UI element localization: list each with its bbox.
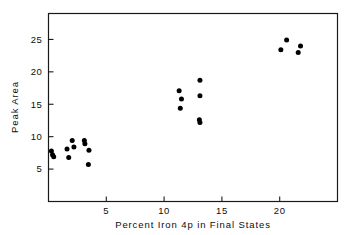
- data-point: [86, 148, 91, 153]
- x-tick-label: 5: [103, 205, 109, 216]
- y-tick-label: 15: [31, 99, 43, 110]
- x-tick-label: 20: [274, 205, 286, 216]
- data-point: [66, 155, 71, 160]
- data-point: [179, 97, 184, 102]
- data-point: [197, 78, 202, 83]
- data-point: [296, 50, 301, 55]
- y-axis-title: Peak Area: [9, 81, 20, 133]
- x-tick-label: 10: [158, 205, 170, 216]
- data-point: [177, 88, 182, 93]
- y-tick-label: 5: [37, 163, 43, 174]
- data-point: [82, 141, 87, 146]
- data-point: [51, 154, 56, 159]
- data-point: [70, 138, 75, 143]
- data-point: [178, 106, 183, 111]
- data-point: [197, 120, 202, 125]
- data-point: [65, 146, 70, 151]
- x-tick-label: 15: [216, 205, 228, 216]
- chart-canvas: 510152025 5101520 Percent Iron 4p in Fin…: [0, 0, 351, 235]
- y-tick-label: 25: [31, 34, 43, 45]
- data-point: [71, 145, 76, 150]
- data-point: [86, 162, 91, 167]
- y-tick-label: 10: [31, 131, 43, 142]
- x-axis-title: Percent Iron 4p in Final States: [115, 219, 271, 230]
- y-tick-label: 20: [31, 66, 43, 77]
- scatter-plot-figure: 510152025 5101520 Percent Iron 4p in Fin…: [0, 0, 351, 235]
- data-point: [298, 43, 303, 48]
- data-point: [284, 38, 289, 43]
- chart-background: [0, 0, 351, 235]
- data-point: [197, 93, 202, 98]
- data-point: [278, 47, 283, 52]
